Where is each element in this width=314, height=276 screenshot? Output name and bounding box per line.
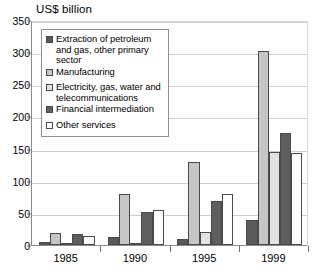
bar	[119, 194, 130, 245]
bar	[108, 237, 119, 245]
x-axis-tick-label: 1985	[53, 252, 77, 264]
legend-item-label: Extraction of petroleum and gas, other p…	[56, 34, 164, 66]
legend-item: Financial intermediation	[46, 104, 164, 115]
bar	[83, 236, 94, 245]
chart-title: US$ billion	[36, 3, 92, 15]
bar	[200, 232, 211, 245]
bar	[280, 133, 291, 246]
x-axis-separator	[170, 246, 171, 252]
legend-item: Manufacturing	[46, 67, 164, 78]
legend-swatch-icon	[46, 106, 53, 113]
bar	[246, 220, 257, 245]
gridline	[32, 22, 307, 23]
bar-chart: US$ billion 050100150200250300350 198519…	[0, 0, 314, 276]
legend-item-label: Manufacturing	[56, 67, 115, 78]
bar	[222, 194, 233, 245]
bar	[50, 233, 61, 245]
legend-item-label: Electricity, gas, water and telecommunic…	[56, 82, 164, 103]
legend-item-label: Financial intermediation	[56, 104, 154, 115]
legend-swatch-icon	[46, 84, 53, 91]
legend-swatch-icon	[46, 69, 53, 76]
chart-legend: Extraction of petroleum and gas, other p…	[41, 29, 169, 137]
legend-item-label: Other services	[56, 120, 116, 131]
bar	[141, 212, 152, 245]
bar	[72, 234, 83, 245]
bar	[61, 243, 72, 245]
x-axis-separator	[239, 246, 240, 252]
legend-item: Other services	[46, 120, 164, 131]
x-axis-tick-label: 1995	[192, 252, 216, 264]
legend-item: Electricity, gas, water and telecommunic…	[46, 82, 164, 103]
bar	[130, 243, 141, 245]
x-axis-tick-label: 1999	[261, 252, 285, 264]
bar	[39, 242, 50, 245]
x-axis-tick-label: 1990	[123, 252, 147, 264]
bar	[153, 210, 164, 245]
x-axis-separator	[100, 246, 101, 252]
bar	[291, 153, 302, 245]
bar	[177, 239, 188, 245]
bar	[258, 51, 269, 245]
x-axis-separator	[308, 246, 309, 252]
bar	[269, 152, 280, 245]
legend-item: Extraction of petroleum and gas, other p…	[46, 34, 164, 66]
bar	[211, 201, 222, 245]
legend-swatch-icon	[46, 36, 53, 43]
legend-swatch-icon	[46, 122, 53, 129]
bar	[188, 162, 199, 245]
